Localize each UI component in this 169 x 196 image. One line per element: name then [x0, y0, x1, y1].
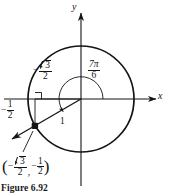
cosine-radicand: 3 [44, 60, 51, 71]
point-x-radicand: 3 [19, 156, 26, 167]
figure-unit-circle: y x − 3 2 7π 6 − 1 2 1 (− 3 2 ,− [0, 0, 169, 196]
figure-caption: Figure 6.92 [1, 183, 48, 193]
sqrt-icon: 3 [15, 156, 26, 167]
cosine-value-label: − 3 2 [33, 60, 52, 82]
point-y-denominator: 2 [37, 167, 44, 177]
point-x-fraction: 3 2 [14, 156, 27, 178]
sine-fraction: 1 2 [7, 100, 14, 121]
x-axis-label: x [158, 91, 162, 101]
sine-denominator: 2 [7, 111, 14, 121]
cosine-numerator: 3 [39, 60, 52, 72]
coordinate-leader-line [23, 131, 33, 152]
right-angle-marker [35, 93, 42, 100]
cosine-fraction: 3 2 [39, 60, 52, 82]
point-y-fraction: 1 2 [37, 157, 44, 178]
sqrt-icon: 3 [40, 60, 51, 71]
point-marker [32, 123, 38, 129]
angle-fraction: 7π 6 [88, 60, 100, 81]
cosine-denominator: 2 [39, 72, 52, 82]
radius-length-label: 1 [60, 117, 65, 127]
point-coordinates-label: (− 3 2 ,− 1 2 ) [2, 156, 49, 178]
y-axis-label: y [72, 2, 76, 12]
point-x-denominator: 2 [14, 168, 27, 178]
terminal-side-ray [12, 99, 81, 139]
close-paren: ) [44, 160, 50, 174]
point-x-numerator: 3 [14, 156, 27, 168]
angle-measure-label: 7π 6 [88, 60, 100, 81]
sine-value-label: − 1 2 [1, 100, 14, 121]
angle-denominator: 6 [88, 71, 100, 81]
